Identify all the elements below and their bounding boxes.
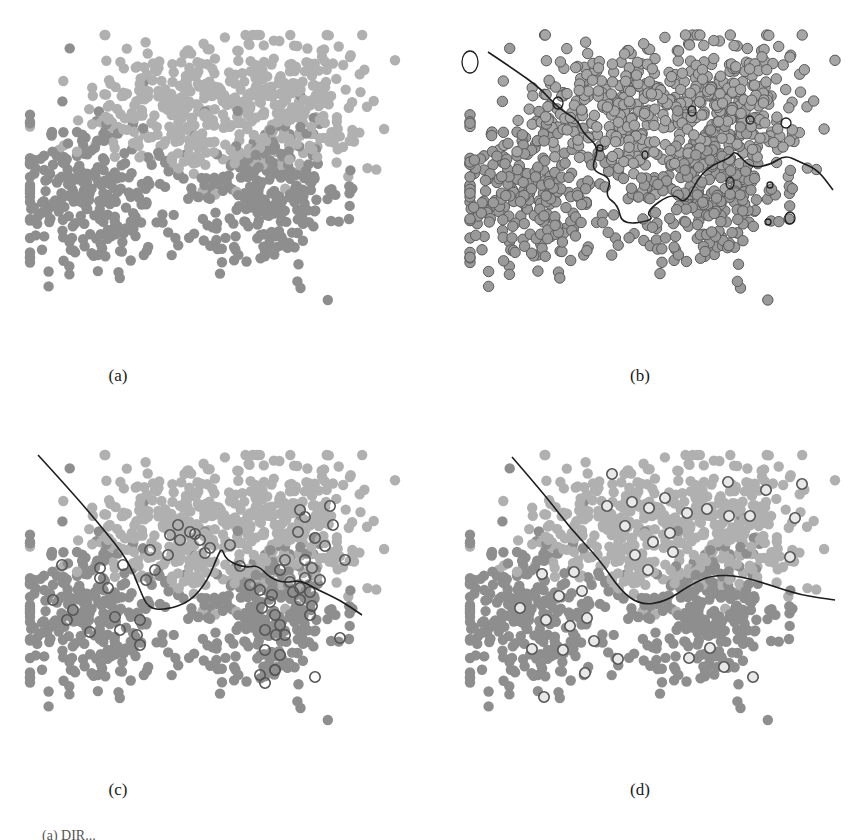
subfigure-label-d: (d): [630, 780, 650, 800]
data-points: [465, 30, 840, 305]
data-points: [25, 450, 400, 725]
scatter-plot-c: [0, 420, 420, 750]
figure-caption-fragment: (a) DIR...: [42, 828, 96, 840]
data-points: [25, 30, 400, 305]
scatter-plot-a: [0, 0, 420, 330]
subfigure-label-a: (a): [109, 366, 128, 386]
scatter-panel-c: [0, 420, 420, 750]
scatter-panel-d: [440, 420, 850, 750]
figure: [0, 0, 850, 840]
subfigure-label-b: (b): [630, 366, 650, 386]
subfigure-label-c: (c): [109, 780, 128, 800]
data-points: [465, 450, 840, 725]
scatter-plot-d: [440, 420, 850, 750]
scatter-panel-a: [0, 0, 420, 330]
scatter-plot-b: [440, 0, 850, 330]
scatter-panel-b: [440, 0, 850, 330]
